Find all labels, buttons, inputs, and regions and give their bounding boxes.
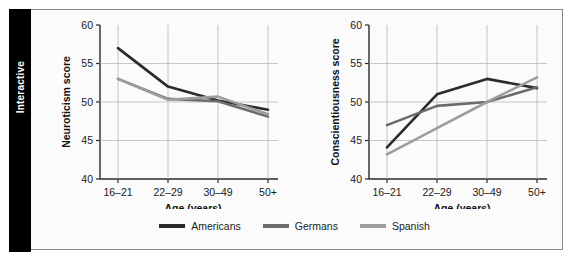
y-tick-label: 55	[350, 57, 362, 69]
chart-neuroticism: 404550556016–2122–2930–4950+Age (years)N…	[26, 9, 295, 209]
y-axis-title: Neuroticism score	[60, 56, 72, 148]
x-axis-title: Age (years)	[164, 202, 221, 209]
y-axis-title: Conscientiousness score	[329, 38, 341, 165]
legend-label-americans: Americans	[191, 220, 241, 232]
legend-swatch-americans	[159, 224, 185, 228]
y-tick-label: 60	[81, 19, 93, 31]
chart-conscientiousness-svg: 404550556016–2122–2930–4950+Age (years)C…	[295, 9, 563, 209]
legend-item-germans[interactable]: Germans	[263, 220, 338, 232]
figure-root: Interactive 404550556016–2122–2930–4950+…	[0, 0, 572, 267]
legend-swatch-germans	[263, 224, 289, 228]
charts-row: 404550556016–2122–2930–4950+Age (years)N…	[26, 9, 563, 209]
chart-neuroticism-svg: 404550556016–2122–2930–4950+Age (years)N…	[26, 9, 294, 209]
y-tick-label: 55	[81, 57, 93, 69]
interactive-tab-label: Interactive	[15, 61, 26, 113]
y-tick-label: 50	[81, 96, 93, 108]
x-tick-label: 50+	[528, 186, 546, 198]
y-tick-label: 45	[81, 134, 93, 146]
legend-label-spanish: Spanish	[392, 220, 430, 232]
x-tick-label: 22–29	[153, 186, 182, 198]
legend-item-americans[interactable]: Americans	[159, 220, 241, 232]
x-tick-label: 16–21	[103, 186, 132, 198]
y-tick-label: 45	[350, 134, 362, 146]
x-tick-label: 30–49	[472, 186, 501, 198]
legend-item-spanish[interactable]: Spanish	[360, 220, 430, 232]
interactive-tab[interactable]: Interactive	[9, 9, 31, 252]
chart-conscientiousness: 404550556016–2122–2930–4950+Age (years)C…	[295, 9, 564, 209]
x-axis-title: Age (years)	[433, 202, 490, 209]
x-tick-label: 30–49	[203, 186, 232, 198]
y-tick-label: 40	[81, 173, 93, 185]
x-tick-label: 16–21	[372, 186, 401, 198]
legend: Americans Germans Spanish	[26, 213, 563, 239]
y-tick-label: 60	[350, 19, 362, 31]
y-tick-label: 50	[350, 96, 362, 108]
series-line-germans	[387, 87, 537, 125]
x-tick-label: 50+	[259, 186, 277, 198]
y-tick-label: 40	[350, 173, 362, 185]
legend-label-germans: Germans	[295, 220, 338, 232]
legend-swatch-spanish	[360, 224, 386, 228]
x-tick-label: 22–29	[422, 186, 451, 198]
